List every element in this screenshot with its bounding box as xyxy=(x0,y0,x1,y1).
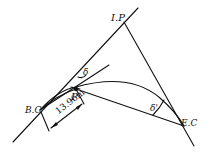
dimension-arrow-end xyxy=(76,104,82,110)
label-bc: B.C xyxy=(25,106,41,115)
curve-diagram xyxy=(0,0,209,156)
label-ec: E.C xyxy=(181,119,197,128)
chord-p-ec-line xyxy=(76,89,184,126)
back-tangent-line xyxy=(13,8,138,142)
dimension-ext-bc xyxy=(41,112,49,131)
label-delta-prime: δ' xyxy=(150,104,158,113)
label-ip: I.P xyxy=(111,13,125,23)
label-delta: δ xyxy=(83,68,88,77)
